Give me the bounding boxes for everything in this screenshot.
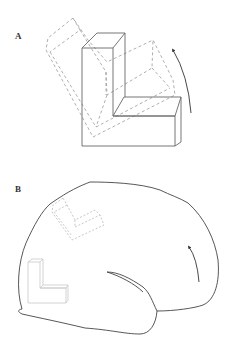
rotation-arrow-b	[189, 247, 199, 282]
dashed-rotated-l-block	[46, 18, 175, 137]
sulcus-line	[107, 272, 143, 292]
brain-temporal-lobe	[19, 309, 157, 334]
small-dashed-l-block	[52, 198, 104, 240]
rotation-arrow-a	[173, 50, 191, 113]
solid-l-block	[82, 33, 181, 146]
small-solid-l-block	[28, 259, 68, 303]
figure-canvas	[0, 0, 228, 350]
brain-outline	[19, 182, 219, 311]
